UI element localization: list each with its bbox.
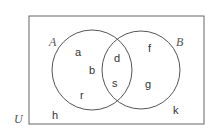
set-b-circle — [102, 31, 180, 109]
set-a-label: A — [48, 35, 57, 49]
element-b: b — [89, 64, 95, 76]
element-f: f — [148, 42, 152, 54]
element-s: s — [112, 77, 118, 89]
venn-diagram: U A B a b r d s f g h k — [0, 0, 216, 132]
element-k: k — [173, 104, 179, 116]
element-a: a — [75, 46, 82, 58]
element-h: h — [52, 109, 58, 121]
universe-label: U — [14, 112, 24, 126]
element-d: d — [114, 52, 120, 64]
set-b-label: B — [176, 35, 184, 49]
element-g: g — [145, 78, 151, 90]
element-r: r — [80, 89, 84, 101]
